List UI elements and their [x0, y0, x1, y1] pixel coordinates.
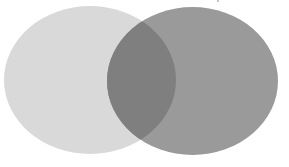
- stray-mark: [217, 0, 219, 2]
- venn-intersection-clip: [4, 6, 176, 154]
- venn-diagram: [0, 0, 289, 167]
- venn-intersection: [107, 7, 176, 154]
